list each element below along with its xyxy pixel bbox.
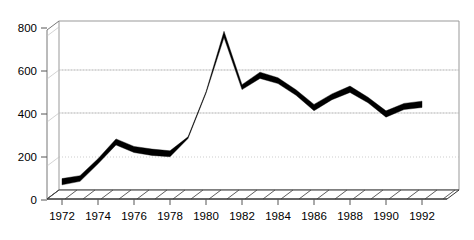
x-tick-label: 1980 [193,210,219,222]
y-tick-label: 600 [18,65,37,77]
y-tick-label: 200 [18,151,37,163]
y-tick-label: 400 [18,108,37,120]
x-tick-label: 1978 [157,210,183,222]
x-tick-label: 1972 [49,210,75,222]
x-tick-label: 1974 [85,210,111,222]
x-tick-label: 1986 [301,210,327,222]
x-tick-label: 1976 [121,210,147,222]
y-tick-label: 0 [31,194,37,206]
x-axis-labels: 1972 1974 1976 1978 1980 1982 1984 1986 … [49,210,435,222]
chart-container: 800 600 400 200 0 [0,0,474,240]
x-tick-label: 1982 [229,210,255,222]
x-tick-label: 1990 [373,210,399,222]
x-tick-label: 1984 [265,210,291,222]
chart-background [0,0,474,240]
y-tick-label: 800 [18,22,37,34]
x-tick-label: 1992 [409,210,435,222]
axis-floor [47,190,459,199]
line-chart: 800 600 400 200 0 [0,0,474,240]
x-tick-label: 1988 [337,210,363,222]
